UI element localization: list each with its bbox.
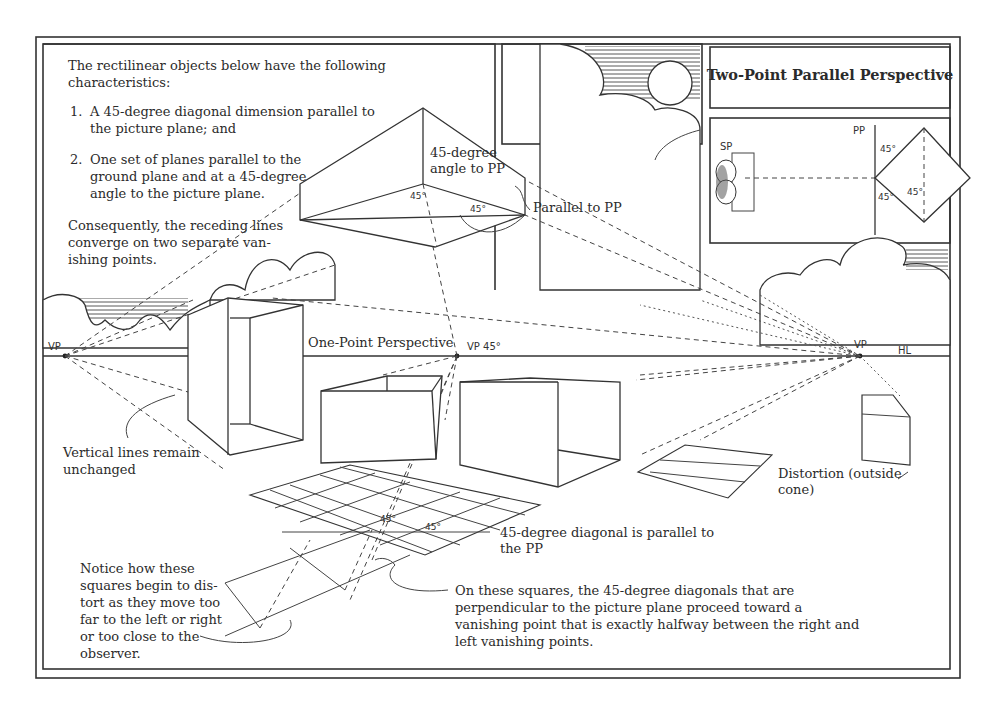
on-these-arrow <box>375 558 448 591</box>
char2-line2: ground plane and at a 45-degree <box>90 169 307 184</box>
diagonal-parallel-line2: the PP <box>500 541 543 556</box>
distorted-squares <box>225 530 410 636</box>
char2-line1: One set of planes parallel to the <box>90 152 302 167</box>
on-these-line2: perpendicular to the picture plane proce… <box>455 600 803 615</box>
consequence-line3: ishing points. <box>68 252 157 267</box>
plan-45-top: 45° <box>880 144 896 154</box>
vertical-lines-line1: Vertical lines remain <box>62 445 200 460</box>
on-these-line3: vanishing point that is exactly halfway … <box>454 617 859 632</box>
parallel-to-pp-label: Parallel to PP <box>533 200 622 215</box>
notice-line6: observer. <box>80 646 141 661</box>
consequence-line2: converge on two separate van- <box>68 235 271 250</box>
ground-grid <box>250 465 540 555</box>
intro-line1: The rectilinear objects below have the f… <box>68 58 386 73</box>
plan-45-inner: 45° <box>907 187 923 197</box>
distortion-line1: Distortion (outside <box>778 466 902 481</box>
middle-box <box>321 376 442 463</box>
plan-45-bottom: 45° <box>878 192 894 202</box>
hl-label: HL <box>898 345 912 356</box>
vp-45-label: VP 45° <box>467 341 501 352</box>
plan-pp-label: PP <box>853 125 865 136</box>
notice-line1: Notice how these <box>80 561 195 576</box>
grid-45-right: 45° <box>425 522 441 532</box>
notice-line5: or too close to the <box>80 629 200 644</box>
notice-line2: squares begin to dis- <box>80 578 218 593</box>
diagonal-parallel-line1: 45-degree diagonal is parallel to <box>500 525 714 540</box>
sun-icon <box>648 61 692 105</box>
cloud-upper-left <box>210 252 335 300</box>
char2-number: 2. <box>70 152 82 167</box>
angle-to-pp-line1: 45-degree <box>430 145 497 160</box>
angle-to-pp-line2: angle to PP <box>430 161 505 176</box>
right-box <box>460 378 620 487</box>
notice-line3: tort as they move too <box>80 595 220 610</box>
on-these-line4: left vanishing points. <box>455 634 593 649</box>
cube-45-left: 45° <box>410 191 426 201</box>
consequence-line1: Consequently, the receding lines <box>68 218 283 233</box>
distortion-box <box>862 395 910 465</box>
title: Two-Point Parallel Perspective <box>707 66 954 83</box>
floating-cube: 45° 45° <box>300 108 525 247</box>
one-point-label: One-Point Perspective <box>308 335 454 350</box>
char2-line3: angle to the picture plane. <box>90 186 265 201</box>
notice-line4: far to the left or right <box>80 612 223 627</box>
vp-left-label: VP <box>48 341 61 352</box>
grid-45-left: 45° <box>380 514 396 524</box>
illustration: Two-Point Parallel Perspective SP PP 45°… <box>0 0 1004 709</box>
perspective-diagram: Two-Point Parallel Perspective SP PP 45°… <box>0 0 1004 709</box>
char1-number: 1. <box>70 104 82 119</box>
vertical-lines-arrow <box>126 395 175 438</box>
tall-box <box>188 298 303 455</box>
observer-icon <box>716 153 754 211</box>
plan-square <box>875 128 970 222</box>
plan-sp-label: SP <box>720 141 732 152</box>
on-these-line1: On these squares, the 45-degree diagonal… <box>455 583 794 598</box>
char1-line1: A 45-degree diagonal dimension parallel … <box>89 104 375 119</box>
distortion-strip <box>638 445 772 498</box>
cube-45-right: 45° <box>470 204 486 214</box>
intro-line2: characteristics: <box>68 75 170 90</box>
vertical-lines-line2: unchanged <box>63 462 136 477</box>
vp-right-label: VP <box>854 339 867 350</box>
char1-line2: the picture plane; and <box>90 121 236 136</box>
distortion-line2: cone) <box>778 482 814 497</box>
